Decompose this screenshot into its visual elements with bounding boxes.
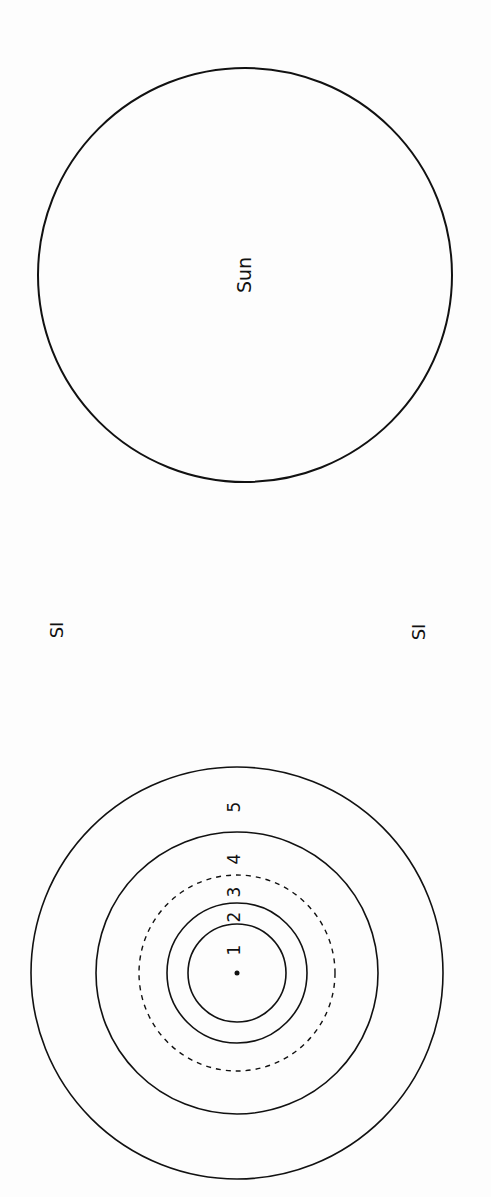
concentric-rings (31, 767, 443, 1179)
sun-label: Sun (233, 257, 255, 293)
side-label-left: SI (46, 622, 67, 639)
ring-label-4: 4 (224, 854, 244, 865)
ring-label-1: 1 (224, 945, 244, 956)
center-dot (235, 971, 240, 976)
ring-label-2: 2 (224, 912, 244, 923)
side-label-right: SI (408, 624, 429, 641)
diagram-canvas: Sun SI SI 1 2 3 4 5 (0, 0, 491, 1197)
ring-label-5: 5 (224, 802, 244, 813)
ring-label-3: 3 (224, 887, 244, 898)
